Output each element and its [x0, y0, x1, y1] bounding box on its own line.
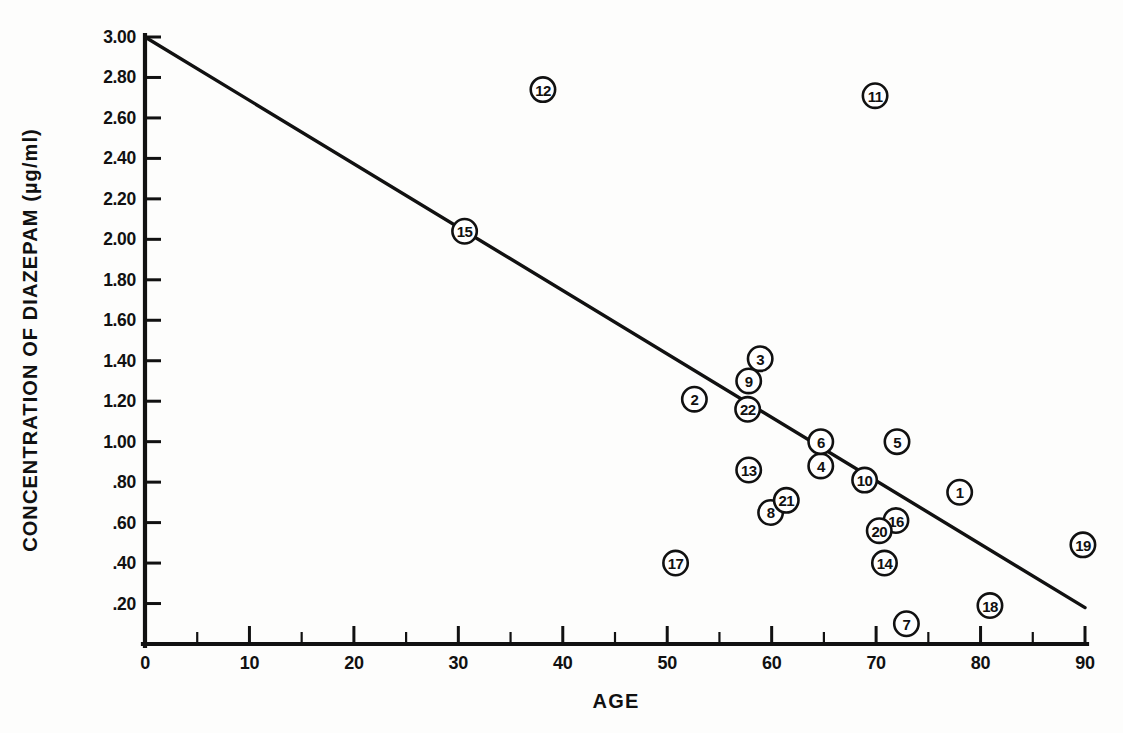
data-point-marker: 14 [872, 551, 896, 575]
x-tick-label: 90 [1075, 653, 1095, 673]
y-tick-label: 2.20 [103, 189, 136, 209]
marker-label: 19 [1075, 537, 1091, 554]
marker-label: 3 [756, 351, 764, 368]
marker-label: 8 [767, 504, 775, 521]
data-point-marker: 21 [774, 488, 798, 512]
data-point-marker: 13 [736, 458, 760, 482]
data-point-marker: 15 [452, 219, 476, 243]
regression-line [145, 37, 1085, 608]
marker-label: 11 [868, 88, 883, 105]
y-tick-label: 1.00 [103, 432, 136, 452]
marker-label: 1 [956, 484, 964, 501]
marker-label: 5 [893, 434, 901, 451]
data-point-marker: 19 [1071, 533, 1095, 557]
data-point-marker: 5 [885, 429, 909, 453]
x-tick-label: 20 [344, 653, 364, 673]
x-tick-label: 80 [971, 653, 991, 673]
data-point-markers: 12345678910111213141516171819202122 [452, 77, 1095, 636]
data-point-marker: 18 [978, 593, 1002, 617]
data-point-marker: 11 [863, 83, 887, 107]
data-point-marker: 22 [735, 397, 759, 421]
y-tick-label: 1.60 [103, 310, 136, 330]
marker-label: 10 [857, 472, 873, 489]
data-point-marker: 7 [894, 612, 918, 636]
x-tick-label: 70 [866, 653, 886, 673]
data-point-marker: 4 [809, 454, 833, 478]
y-tick-label: 1.80 [103, 270, 136, 290]
y-tick-label: 2.80 [103, 67, 136, 87]
data-point-marker: 17 [663, 551, 687, 575]
y-tick-label: 3.00 [103, 27, 136, 47]
data-point-marker: 10 [852, 468, 876, 492]
chart-figure: CONCENTRATION OF DIAZEPAM (µg/ml) AGE .2… [0, 0, 1123, 733]
x-tick-label: 50 [658, 653, 678, 673]
marker-label: 14 [877, 555, 894, 572]
data-point-marker: 20 [867, 518, 891, 542]
y-tick-label: 1.20 [103, 391, 136, 411]
data-point-marker: 6 [809, 429, 833, 453]
x-tick-label: 10 [240, 653, 260, 673]
marker-label: 15 [457, 223, 473, 240]
x-tick-label: 60 [762, 653, 782, 673]
data-point-marker: 2 [682, 387, 706, 411]
data-point-marker: 3 [748, 347, 772, 371]
y-tick-label: 1.40 [103, 351, 136, 371]
y-tick-label: .40 [113, 553, 137, 573]
y-tick-label: 2.60 [103, 108, 136, 128]
y-tick-label: .80 [113, 472, 137, 492]
marker-label: 2 [691, 391, 699, 408]
marker-label: 22 [740, 401, 756, 418]
x-axis-tick-labels: 0102030405060708090 [140, 653, 1095, 673]
marker-label: 20 [871, 523, 887, 540]
data-point-marker: 12 [531, 77, 555, 101]
y-tick-label: 2.00 [103, 229, 136, 249]
y-axis-title: CONCENTRATION OF DIAZEPAM (µg/ml) [19, 128, 41, 552]
y-axis-ticks [145, 37, 161, 604]
marker-label: 4 [817, 458, 826, 475]
y-axis-tick-labels: .20.40.60.801.001.201.401.601.802.002.20… [103, 27, 136, 614]
x-tick-label: 0 [140, 653, 150, 673]
marker-label: 17 [668, 555, 684, 572]
y-tick-label: 2.40 [103, 148, 136, 168]
marker-label: 21 [779, 492, 795, 509]
marker-label: 13 [741, 462, 757, 479]
x-tick-label: 40 [553, 653, 573, 673]
y-tick-label: .20 [113, 594, 137, 614]
data-point-marker: 1 [947, 480, 971, 504]
y-tick-label: .60 [113, 513, 137, 533]
data-point-marker: 9 [736, 369, 760, 393]
marker-label: 6 [817, 434, 825, 451]
regression-trend-line [145, 37, 1085, 608]
x-tick-label: 30 [449, 653, 469, 673]
marker-label: 7 [903, 616, 911, 633]
marker-label: 9 [745, 373, 753, 390]
scatter-plot-canvas: CONCENTRATION OF DIAZEPAM (µg/ml) AGE .2… [0, 0, 1123, 733]
marker-label: 12 [535, 82, 551, 99]
marker-label: 18 [982, 598, 998, 615]
x-axis-title: AGE [593, 690, 640, 712]
